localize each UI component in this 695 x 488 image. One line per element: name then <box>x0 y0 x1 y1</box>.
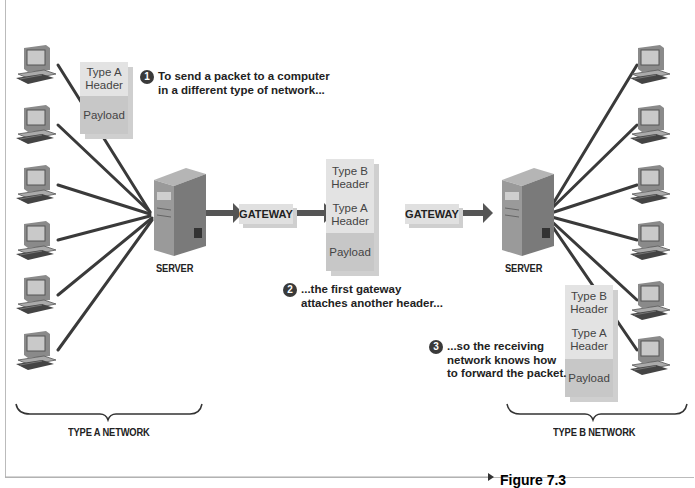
packet-header-b: Type B Header <box>565 285 613 321</box>
computer-icon <box>630 220 672 262</box>
server-icon <box>496 160 556 256</box>
packet-header-a: Type A Header <box>326 196 374 233</box>
packet-payload: Payload <box>565 359 613 397</box>
server-a <box>148 160 208 256</box>
step-number-badge: 1 <box>140 70 154 84</box>
computer-icon <box>630 104 672 146</box>
server-b <box>496 160 556 256</box>
step-2-note: 2...the first gateway attaches another h… <box>283 283 443 310</box>
step-number-badge: 3 <box>429 340 443 354</box>
computer-icon <box>16 220 58 262</box>
packet-header-a: Type A Header <box>565 321 613 359</box>
packet-type-a: Type A Header Payload <box>80 62 128 134</box>
packet-header-b: Type B Header <box>326 159 374 196</box>
gateway-2: GATEWAY <box>405 204 459 224</box>
step-1-note: 1To send a packet to a computer in a dif… <box>140 70 330 97</box>
server-icon <box>148 160 208 256</box>
computer-icon <box>16 164 58 206</box>
packet-payload: Payload <box>80 96 128 134</box>
computer-icon <box>16 330 58 372</box>
gateway-1: GATEWAY <box>239 204 293 224</box>
computer-icon <box>16 44 58 86</box>
computer-icon <box>630 280 672 322</box>
packet-encapsulated-received: Type B Header Type A Header Payload <box>565 285 613 397</box>
server-b-label: SERVER <box>505 262 542 274</box>
packet-encapsulated-middle: Type B Header Type A Header Payload <box>326 159 374 271</box>
packet-payload: Payload <box>326 233 374 271</box>
computer-icon <box>16 274 58 316</box>
packet-header-a: Type A Header <box>80 62 128 96</box>
figure-label: Figure 7.3 <box>500 472 566 488</box>
computer-icon <box>630 335 672 377</box>
brace-icon <box>16 404 202 420</box>
network-a-label: TYPE A NETWORK <box>68 426 150 438</box>
server-a-label: SERVER <box>156 262 193 274</box>
step-3-note: 3...so the receiving network knows how t… <box>429 340 567 380</box>
computer-icon <box>630 164 672 206</box>
computer-icon <box>630 44 672 86</box>
computer-icon <box>16 104 58 146</box>
network-b-label: TYPE B NETWORK <box>553 426 635 438</box>
step-number-badge: 2 <box>283 283 297 297</box>
